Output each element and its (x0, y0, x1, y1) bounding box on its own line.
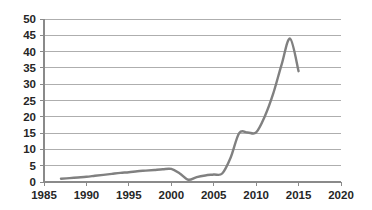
y-tick-label-30: 30 (23, 78, 36, 90)
gridlines-group (44, 19, 341, 182)
series-line-1 (61, 39, 299, 180)
y-tick-label-35: 35 (23, 62, 36, 74)
x-tick-label-1995: 1995 (116, 189, 142, 201)
x-tick-label-2010: 2010 (243, 189, 269, 201)
y-tick-label-20: 20 (23, 111, 36, 123)
x-tick-label-2020: 2020 (328, 189, 354, 201)
x-tick-label-1985: 1985 (31, 189, 57, 201)
y-tick-label-50: 50 (23, 13, 36, 25)
y-tick-label-0: 0 (30, 176, 36, 188)
x-tick-label-2015: 2015 (286, 189, 312, 201)
tickmarks-group (40, 19, 341, 186)
y-axis-tick-labels: 05101520253035404550 (23, 13, 36, 188)
y-tick-label-15: 15 (23, 127, 36, 139)
y-tick-label-25: 25 (23, 95, 36, 107)
x-tick-label-2000: 2000 (158, 189, 184, 201)
x-tick-label-2005: 2005 (201, 189, 227, 201)
x-tick-label-1990: 1990 (74, 189, 100, 201)
chart-canvas: 05101520253035404550 1985199019952000200… (0, 0, 372, 210)
y-tick-label-40: 40 (23, 46, 36, 58)
line-chart: 05101520253035404550 1985199019952000200… (0, 0, 372, 210)
y-tick-label-45: 45 (23, 29, 36, 41)
x-axis-tick-labels: 19851990199520002005201020152020 (31, 189, 354, 201)
data-series-group (61, 39, 299, 180)
y-tick-label-5: 5 (30, 160, 37, 172)
y-tick-label-10: 10 (23, 143, 36, 155)
